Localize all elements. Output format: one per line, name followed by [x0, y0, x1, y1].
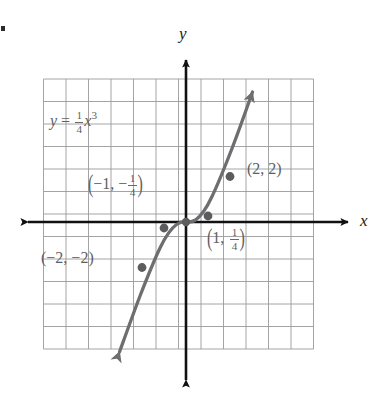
point-label-neg2: (−2, −2): [41, 250, 94, 266]
paren-close: ): [240, 225, 245, 250]
paren-open: (: [88, 171, 93, 196]
point-label-pos1: (1,14): [207, 227, 245, 252]
fraction-denominator: 4: [230, 240, 238, 252]
point-label-y-fraction: 14: [128, 173, 136, 198]
point-origin: [182, 218, 190, 226]
fraction-denominator: 4: [128, 186, 136, 198]
point-label-text: (2, 2): [247, 160, 282, 177]
equation-coefficient-fraction: 14: [75, 110, 83, 135]
equation-relation: =: [61, 112, 70, 129]
point-neg2: [138, 263, 147, 272]
fraction-numerator: 1: [230, 227, 238, 240]
point-label-x: 1,: [212, 229, 224, 246]
y-axis-label: y: [179, 25, 187, 42]
plot-canvas: [0, 0, 386, 412]
point-label-y-fraction: 14: [230, 227, 238, 252]
paren-open: (: [207, 225, 212, 250]
fraction-denominator: 4: [75, 123, 83, 135]
point-neg1: [160, 224, 169, 233]
point-pos2: [226, 172, 235, 181]
graph-figure: y=14x3 (−1,−14) (1,14) (2, 2) (−2, −2) x…: [0, 0, 386, 412]
equation-exponent: 3: [91, 109, 97, 121]
point-label-pos2: (2, 2): [247, 161, 282, 177]
scan-artifact-mark: [1, 26, 5, 31]
point-pos1: [204, 212, 213, 221]
fraction-numerator: 1: [75, 110, 83, 123]
equation-lhs: y: [50, 112, 57, 129]
point-label-x: −1,: [93, 175, 114, 192]
point-label-y-sign: −: [118, 175, 127, 192]
paren-close: ): [138, 171, 143, 196]
x-axis-label: x: [360, 212, 368, 229]
point-label-neg1: (−1,−14): [88, 173, 143, 198]
point-label-text: (−2, −2): [41, 249, 94, 266]
fraction-numerator: 1: [128, 173, 136, 186]
equation-label: y=14x3: [50, 110, 97, 135]
